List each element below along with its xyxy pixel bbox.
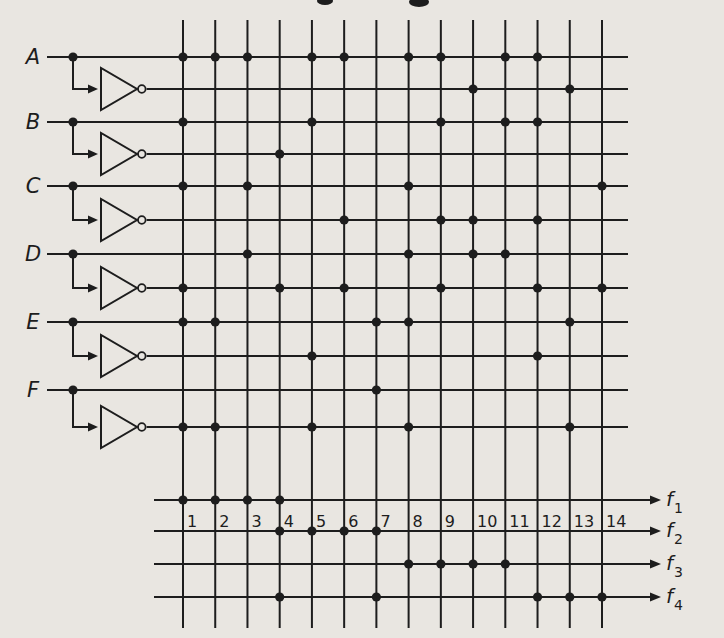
connection-dot [275, 149, 284, 158]
connection-dot [404, 249, 413, 258]
connection-dot [275, 526, 284, 535]
input-label-A: A [24, 45, 40, 69]
connection-dot [565, 317, 574, 326]
product-term-number-14: 14 [606, 512, 626, 531]
connection-dot [597, 592, 606, 601]
connection-dot [597, 181, 606, 190]
input-label-B: B [26, 110, 40, 134]
inverter-bubble [138, 85, 146, 93]
product-term-number-6: 6 [348, 512, 358, 531]
connection-dot [565, 592, 574, 601]
connection-dot [178, 181, 187, 190]
inverter-bubble [138, 423, 146, 431]
connection-dot [372, 385, 381, 394]
connection-dot [436, 283, 445, 292]
inverter-bubble [138, 352, 146, 360]
connection-dot [178, 52, 187, 61]
connection-dot [533, 351, 542, 360]
product-term-number-3: 3 [251, 512, 261, 531]
connection-dot [533, 117, 542, 126]
pla-crossbar-diagram: ABCDEF1234567891011121314f1f2f3f4 [0, 0, 724, 638]
connection-dot [533, 52, 542, 61]
connection-dot [404, 559, 413, 568]
connection-dot [468, 559, 477, 568]
connection-dot [275, 592, 284, 601]
connection-dot [243, 495, 252, 504]
connection-dot [340, 526, 349, 535]
connection-dot [211, 317, 220, 326]
connection-dot [275, 495, 284, 504]
connection-dot [565, 84, 574, 93]
connection-dot [211, 52, 220, 61]
connection-dot [468, 215, 477, 224]
connection-dot [307, 422, 316, 431]
connection-dot [404, 422, 413, 431]
connection-dot [178, 283, 187, 292]
inverter-bubble [138, 284, 146, 292]
connection-dot [178, 117, 187, 126]
connection-dot [340, 283, 349, 292]
connection-dot [468, 249, 477, 258]
connection-dot [501, 559, 510, 568]
connection-dot [468, 84, 477, 93]
connection-dot [178, 317, 187, 326]
input-label-E: E [26, 310, 40, 334]
connection-dot [340, 215, 349, 224]
product-term-number-2: 2 [219, 512, 229, 531]
connection-dot [565, 422, 574, 431]
product-term-number-5: 5 [316, 512, 326, 531]
connection-dot [243, 249, 252, 258]
pla-diagram-page: ABCDEF1234567891011121314f1f2f3f4 [0, 0, 724, 638]
connection-dot [597, 283, 606, 292]
connection-dot [307, 351, 316, 360]
connection-dot [178, 495, 187, 504]
connection-dot [501, 117, 510, 126]
product-term-number-1: 1 [187, 512, 197, 531]
connection-dot [243, 181, 252, 190]
connection-dot [501, 249, 510, 258]
connection-dot [307, 52, 316, 61]
product-term-number-10: 10 [477, 512, 497, 531]
connection-dot [436, 117, 445, 126]
product-term-number-8: 8 [413, 512, 423, 531]
connection-dot [307, 526, 316, 535]
product-term-number-9: 9 [445, 512, 455, 531]
connection-dot [501, 52, 510, 61]
product-term-number-11: 11 [509, 512, 529, 531]
product-term-number-13: 13 [574, 512, 594, 531]
connection-dot [372, 592, 381, 601]
connection-dot [178, 422, 187, 431]
product-term-number-7: 7 [380, 512, 390, 531]
input-label-F: F [27, 378, 40, 402]
connection-dot [533, 283, 542, 292]
connection-dot [436, 52, 445, 61]
connection-dot [436, 559, 445, 568]
connection-dot [340, 52, 349, 61]
connection-dot [436, 215, 445, 224]
input-label-D: D [25, 242, 41, 266]
inverter-bubble [138, 150, 146, 158]
connection-dot [533, 592, 542, 601]
inverter-bubble [138, 216, 146, 224]
input-label-C: C [26, 174, 41, 198]
connection-dot [275, 283, 284, 292]
connection-dot [404, 181, 413, 190]
connection-dot [372, 526, 381, 535]
connection-dot [211, 422, 220, 431]
connection-dot [243, 52, 252, 61]
connection-dot [533, 215, 542, 224]
product-term-number-4: 4 [284, 512, 294, 531]
connection-dot [211, 495, 220, 504]
connection-dot [307, 117, 316, 126]
product-term-number-12: 12 [542, 512, 562, 531]
connection-dot [372, 317, 381, 326]
connection-dot [404, 52, 413, 61]
connection-dot [404, 317, 413, 326]
